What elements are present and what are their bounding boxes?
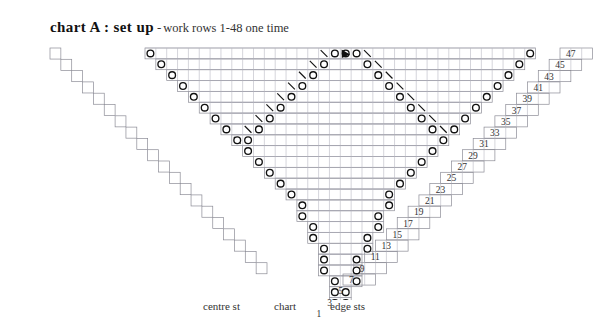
row-number: 45: [555, 60, 565, 70]
yarn-over-right-edge: [342, 289, 349, 296]
row-number: 23: [436, 185, 446, 195]
yarn-over-left-edge: [310, 224, 317, 231]
edge-stitch-left: [148, 150, 159, 161]
edge-stitch-right: [538, 71, 571, 82]
yarn-over-right-edge: [386, 191, 393, 198]
edge-stitch-left: [202, 206, 213, 217]
yarn-over-right-edge: [353, 256, 360, 263]
yarn-over-left-edge: [277, 180, 284, 187]
edge-stitch-right: [397, 218, 430, 229]
chart-page: chart A : set up-work rows 1-48 one time…: [0, 0, 613, 325]
row-number: 13: [382, 241, 392, 251]
edge-stitch-right: [452, 161, 485, 172]
decrease-symbol: [266, 104, 273, 111]
edge-stitch-right: [473, 138, 506, 149]
row-number: 21: [425, 196, 435, 206]
decrease-symbol: [245, 126, 252, 133]
decrease-symbol: [310, 61, 317, 68]
yarn-over-right-edge: [494, 83, 501, 90]
edge-stitch-right: [560, 48, 593, 59]
yarn-over-left-edge: [223, 126, 230, 133]
decrease-symbol: [288, 83, 295, 90]
yarn-over-inner-right: [386, 83, 393, 90]
edge-stitch-right: [376, 240, 409, 251]
chart-row-outline: [308, 222, 384, 233]
decrease-symbol: [375, 61, 382, 68]
decrease-symbol: [397, 83, 404, 90]
edge-stitch-right: [462, 150, 495, 161]
chart-row-outline: [297, 200, 395, 211]
decrease-symbol: [321, 50, 328, 57]
yarn-over-left-edge: [321, 245, 328, 252]
edge-stitch-left: [137, 138, 148, 149]
yarn-over-inner-right: [407, 104, 414, 111]
yarn-over-inner-left: [332, 50, 339, 57]
row-number: 25: [447, 173, 457, 183]
yarn-over-right-edge: [407, 169, 414, 176]
yarn-over-right-edge: [375, 213, 382, 220]
yarn-over-right-edge: [516, 61, 523, 68]
row-number: 31: [479, 139, 489, 149]
yarn-over-right-edge: [429, 148, 436, 155]
chart-grid-layer: [145, 48, 536, 300]
yarn-over-right-edge: [375, 224, 382, 231]
yarn-over-left-edge: [169, 72, 176, 79]
yarn-over-right-edge: [386, 202, 393, 209]
edge-stitch-right: [549, 59, 582, 70]
yarn-over-left-edge: [158, 61, 165, 68]
yarn-over-left-edge: [288, 191, 295, 198]
decrease-symbol: [407, 93, 414, 100]
chart-caption-centre-st: centre st: [203, 300, 240, 312]
edge-stitch-right: [517, 93, 550, 104]
yarn-over-inner-right: [397, 93, 404, 100]
row-number: 41: [533, 83, 543, 93]
decrease-symbol: [364, 50, 371, 57]
yarn-over-inner-left: [321, 61, 328, 68]
yarn-over-right-edge: [527, 50, 534, 57]
edge-stitch-left: [61, 59, 72, 70]
yarn-over-inner-left: [266, 115, 273, 122]
decrease-symbol: [299, 72, 306, 79]
yarn-over-inner-right: [375, 72, 382, 79]
yarn-over-inner-left: [288, 93, 295, 100]
yarn-over-left-edge: [256, 159, 263, 166]
chart-caption-chart: chart: [274, 300, 296, 312]
edge-stitch-right: [484, 127, 517, 138]
edge-stitch-left: [72, 71, 83, 82]
edge-stitch-right: [419, 195, 452, 206]
row-number: 35: [501, 117, 511, 127]
edge-stitch-right: [495, 116, 528, 127]
yarn-over-left-edge: [321, 267, 328, 274]
chart-caption-edge-sts: edge sts: [330, 300, 365, 312]
edge-stitch-left: [115, 116, 126, 127]
yarn-over-right-edge: [505, 72, 512, 79]
edge-stitch-left: [159, 161, 170, 172]
edge-stitch-right: [365, 251, 398, 262]
edge-stitch-left: [256, 263, 267, 274]
edge-stitch-left: [245, 251, 256, 262]
row-number: 19: [414, 207, 424, 217]
row-number: 11: [371, 252, 380, 262]
edge-stitch-left: [93, 93, 104, 104]
edge-stitch-left: [191, 195, 202, 206]
edge-stitch-right: [408, 206, 441, 217]
row-number: 17: [403, 219, 413, 229]
edge-stitch-right: [430, 184, 463, 195]
row-number: 47: [566, 49, 576, 59]
edge-stitch-left: [104, 105, 115, 116]
yarn-over-left-edge: [266, 169, 273, 176]
yarn-over-left-edge: [321, 256, 328, 263]
yarn-over-right-edge: [462, 115, 469, 122]
decrease-symbol: [440, 126, 447, 133]
edge-stitch-left: [180, 184, 191, 195]
yarn-over-left-edge: [147, 50, 154, 57]
decrease-symbol: [429, 115, 436, 122]
row-number: 9: [360, 264, 365, 274]
edge-stitch-left: [224, 229, 235, 240]
row-number: 39: [523, 94, 533, 104]
yarn-over-left-edge: [299, 213, 306, 220]
yarn-over-inner-right: [353, 50, 360, 57]
yarn-over-right-edge: [397, 180, 404, 187]
yarn-over-right-edge: [440, 137, 447, 144]
yarn-over-inner-left: [256, 126, 263, 133]
